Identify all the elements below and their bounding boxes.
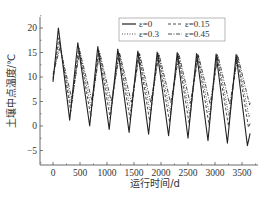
y-tick-label: 5 [32,97,37,107]
legend-label: ε=0.45 [185,29,210,39]
x-tick-label: 2000 [152,168,171,178]
y-tick-label: 20 [28,23,38,33]
x-tick-label: 1000 [98,168,117,178]
line-chart: 0500100015002000250030003500−505101520 ε… [0,0,269,200]
x-tick-label: 1500 [125,168,144,178]
plot-series [53,28,250,146]
y-axis-label: 土壤中点温度/℃ [5,54,17,129]
x-tick-label: 3000 [206,168,225,178]
x-tick-label: 0 [51,168,56,178]
legend-label: ε=0.3 [139,29,160,39]
y-tick-label: 10 [28,72,38,82]
y-tick-label: 0 [32,121,37,131]
legend-label: ε=0 [139,19,153,29]
legend: ε=0ε=0.15ε=0.3ε=0.45 [119,18,225,41]
y-tick-label: 15 [28,48,38,58]
x-tick-label: 3500 [233,168,252,178]
series-line [53,38,250,128]
x-tick-label: 2500 [179,168,198,178]
y-tick-label: −5 [27,146,37,156]
legend-label: ε=0.15 [185,19,210,29]
series-line [53,28,250,146]
x-axis-label: 运行时间/d [130,177,180,189]
x-tick-label: 500 [73,168,88,178]
